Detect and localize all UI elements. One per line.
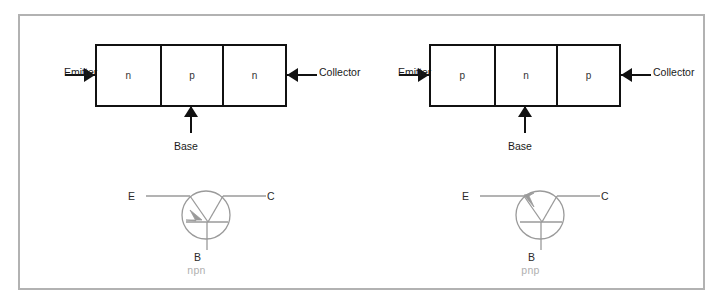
pnp-symbol-collector-pin-label: C <box>601 190 609 202</box>
npn-symbol-emitter-pin-label: E <box>128 190 135 202</box>
panel-pnp: Emitter Collector Base p n p <box>354 16 707 292</box>
npn-region-base: p <box>160 46 223 105</box>
pnp-type-label: pnp <box>354 264 707 276</box>
pnp-emitter-arrowhead-icon <box>524 193 534 207</box>
pnp-region-base: n <box>494 46 557 105</box>
npn-symbol-collector-pin-label: C <box>267 190 275 202</box>
npn-collector-terminal-arrow-icon <box>287 68 298 82</box>
pnp-collector-label: Collector <box>653 66 694 78</box>
npn-symbol-base-pin-label: B <box>194 251 201 263</box>
npn-envelope-circle <box>182 191 230 239</box>
npn-base-terminal-arrow-icon <box>184 106 198 117</box>
npn-emitter-arrowhead-icon <box>186 210 202 221</box>
pnp-emitter-branch <box>524 196 542 222</box>
pnp-base-terminal-arrow-icon <box>518 106 532 117</box>
npn-region-emitter: n <box>97 46 160 105</box>
pnp-region-block: p n p <box>429 44 621 107</box>
npn-structure-diagram: Emitter Collector Base n p n <box>95 44 287 107</box>
pnp-symbol-base-pin-label: B <box>528 251 535 263</box>
pnp-collector-branch <box>542 196 557 222</box>
pnp-region-emitter: p <box>431 46 494 105</box>
npn-region-collector: n <box>222 46 285 105</box>
npn-schematic-symbol: E C B <box>128 164 288 274</box>
pnp-base-label: Base <box>508 140 532 152</box>
npn-region-block: n p n <box>95 44 287 107</box>
npn-base-label: Base <box>174 140 198 152</box>
npn-collector-branch <box>208 196 223 222</box>
pnp-region-collector: p <box>556 46 619 105</box>
transistor-figure: Emitter Collector Base n p n <box>0 0 725 307</box>
pnp-symbol-emitter-pin-label: E <box>462 190 469 202</box>
npn-emitter-label: Emitter <box>64 66 97 78</box>
pnp-symbol-drawing <box>462 164 622 274</box>
pnp-schematic-symbol: E C B <box>462 164 622 274</box>
pnp-emitter-label: Emitter <box>398 66 431 78</box>
panel-npn: Emitter Collector Base n p n <box>20 16 373 292</box>
pnp-envelope-circle <box>516 191 564 239</box>
pnp-structure-diagram: Emitter Collector Base p n p <box>429 44 621 107</box>
npn-type-label: npn <box>20 264 373 276</box>
npn-symbol-drawing <box>128 164 288 274</box>
figure-frame: Emitter Collector Base n p n <box>18 14 705 290</box>
pnp-collector-terminal-arrow-icon <box>621 68 632 82</box>
